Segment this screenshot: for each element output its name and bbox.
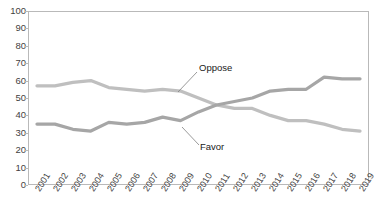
annotation-oppose: Oppose	[199, 62, 232, 73]
line-chart: 0102030405060708090100 20012002200320042…	[0, 0, 389, 222]
series-layer	[0, 0, 389, 222]
annotation-favor: Favor	[200, 141, 224, 152]
series-line-oppose	[37, 81, 360, 131]
leader-line-oppose	[178, 72, 197, 92]
leader-line-favor	[182, 127, 199, 145]
